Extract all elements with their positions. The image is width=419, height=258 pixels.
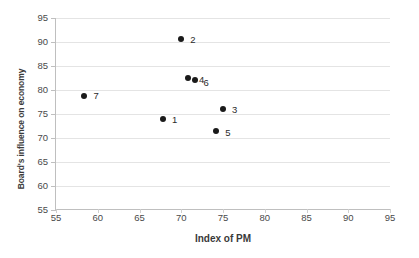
y-tick-label: 75 [24, 109, 48, 119]
data-point [192, 77, 198, 83]
gridline [56, 186, 390, 187]
data-point [178, 36, 184, 42]
gridline [56, 18, 390, 19]
data-point-label: 5 [225, 129, 230, 139]
y-tick-label: 95 [24, 13, 48, 23]
data-point [185, 75, 191, 81]
data-point-label: 2 [190, 35, 195, 45]
x-tick-label: 90 [333, 213, 363, 223]
gridline [56, 162, 390, 163]
data-point-label: 7 [93, 91, 98, 101]
y-tick-label: 85 [24, 61, 48, 71]
y-tick-label: 70 [24, 133, 48, 143]
x-tick-label: 55 [41, 213, 71, 223]
data-point-label: 1 [172, 115, 177, 125]
y-tick-mark [51, 114, 56, 115]
x-tick-label: 60 [83, 213, 113, 223]
data-point [81, 93, 87, 99]
y-tick-mark [51, 186, 56, 187]
data-point-label: 6 [203, 78, 208, 88]
x-tick-label: 95 [375, 213, 405, 223]
gridline [56, 138, 390, 139]
y-tick-label: 60 [24, 181, 48, 191]
y-tick-label: 90 [24, 37, 48, 47]
x-tick-label: 65 [125, 213, 155, 223]
data-point [213, 128, 219, 134]
data-point-label: 3 [232, 105, 237, 115]
gridline [56, 42, 390, 43]
y-tick-label: 65 [24, 157, 48, 167]
x-tick-label: 70 [166, 213, 196, 223]
y-tick-mark [51, 42, 56, 43]
y-tick-mark [51, 66, 56, 67]
gridline [56, 66, 390, 67]
y-tick-mark [51, 18, 56, 19]
x-tick-label: 75 [208, 213, 238, 223]
x-tick-label: 80 [250, 213, 280, 223]
x-axis-title: Index of PM [56, 233, 390, 244]
y-tick-mark [51, 162, 56, 163]
x-tick-label: 85 [292, 213, 322, 223]
data-point [160, 116, 166, 122]
y-tick-label: 80 [24, 85, 48, 95]
gridline [56, 90, 390, 91]
data-point [220, 106, 226, 112]
y-tick-mark [51, 138, 56, 139]
gridline [56, 114, 390, 115]
scatter-chart: Board's influence on economy 55606570758… [0, 0, 419, 258]
y-tick-mark [51, 90, 56, 91]
